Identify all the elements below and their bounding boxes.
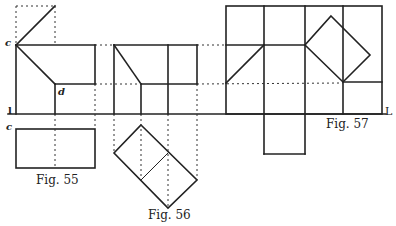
fig57-development <box>226 6 382 154</box>
point-label-c-bottom: c <box>6 122 12 132</box>
point-label-c-top: c <box>5 38 11 48</box>
point-label-ground-right: L <box>385 106 392 117</box>
point-label-d: d <box>58 87 65 97</box>
figure-caption-56: Fig. 56 <box>148 209 191 221</box>
fig56-plan <box>114 125 197 208</box>
diagram-canvas <box>0 0 396 226</box>
figure-caption-55: Fig. 55 <box>36 174 79 186</box>
fig56-elevation <box>114 45 197 114</box>
figure-caption-57: Fig. 57 <box>326 118 369 130</box>
point-label-ground-left: l <box>8 106 12 116</box>
